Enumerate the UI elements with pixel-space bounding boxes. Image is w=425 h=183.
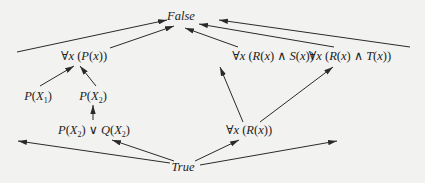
edge-right-stub-top-to-false [219, 20, 410, 47]
edge-p-x1-to-forall-p [40, 66, 74, 86]
node-p-x2-or-q-x2: P(X2) ∨ Q(X2) [58, 124, 130, 137]
node-p-x1: P(X1) [24, 90, 52, 103]
node-false: False [167, 10, 195, 23]
lattice-diagram [0, 0, 425, 183]
node-forall-r: ∀x (R(x)) [226, 124, 272, 137]
node-forall-r-and-s: ∀x (R(x) ∧ S(x)) [232, 50, 314, 63]
edge-true-to-right-stub-bottom [200, 141, 337, 165]
edge-forall-r-to-forall-r-and-t [260, 67, 333, 122]
edges [17, 20, 410, 165]
edge-forall-r-to-forall-r-and-s [220, 67, 243, 122]
edge-true-to-p-x2-or-q-x2 [112, 140, 174, 161]
node-p-x2: P(X2) [79, 90, 107, 103]
edge-forall-p-to-false [110, 26, 174, 48]
edge-p-x2-to-forall-p [80, 66, 96, 86]
edge-forall-r-and-t-to-false [199, 24, 334, 47]
node-true: True [172, 161, 195, 174]
edge-forall-r-and-s-to-false [185, 28, 238, 47]
edge-true-to-forall-r [195, 140, 239, 161]
node-forall-p: ∀x (P(x)) [61, 50, 107, 63]
node-forall-r-and-t: ∀x (R(x) ∧ T(x)) [309, 50, 391, 63]
